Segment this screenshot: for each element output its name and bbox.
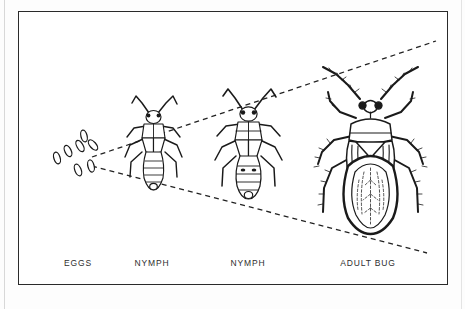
diagram-frame (18, 11, 448, 285)
page-edge-right (461, 0, 462, 309)
stage-label-adult: ADULT BUG (318, 258, 418, 268)
stage-label-eggs: EGGS (38, 258, 118, 268)
stage-label-nymph-first: NYMPH (112, 258, 192, 268)
page-edge-left (4, 0, 5, 309)
figure-page: EGGS NYMPH NYMPH ADULT BUG (0, 0, 465, 309)
stage-label-nymph-second: NYMPH (208, 258, 288, 268)
top-caption (150, 0, 350, 4)
